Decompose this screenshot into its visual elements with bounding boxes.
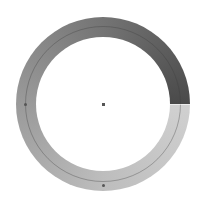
bottom-marker-dot[interactable] bbox=[102, 184, 105, 187]
ring-stage bbox=[0, 0, 205, 199]
left-marker-dot[interactable] bbox=[24, 103, 27, 106]
center-dot bbox=[102, 103, 105, 106]
ring-seam bbox=[170, 104, 190, 105]
